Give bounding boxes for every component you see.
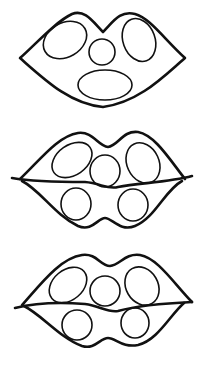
- circle-lower-left: [61, 188, 91, 220]
- circle-lower-right: [121, 308, 149, 338]
- lips-parted-1: [12, 132, 192, 228]
- lips-closed: [20, 13, 185, 107]
- circle-center: [89, 39, 115, 65]
- circle-upper-center: [90, 155, 120, 187]
- oval-upper-right: [116, 14, 161, 66]
- circle-lower-left: [62, 310, 92, 340]
- lips-diagram: [0, 0, 202, 366]
- upper-lip-outline: [22, 255, 192, 305]
- lips-parted-2: [15, 255, 192, 347]
- circle-upper-center: [90, 276, 120, 306]
- oval-lower: [78, 70, 132, 100]
- lip-outline: [20, 13, 185, 107]
- lower-lip-outline: [22, 181, 182, 227]
- circle-lower-right: [118, 189, 148, 221]
- oval-upper-left: [37, 14, 94, 66]
